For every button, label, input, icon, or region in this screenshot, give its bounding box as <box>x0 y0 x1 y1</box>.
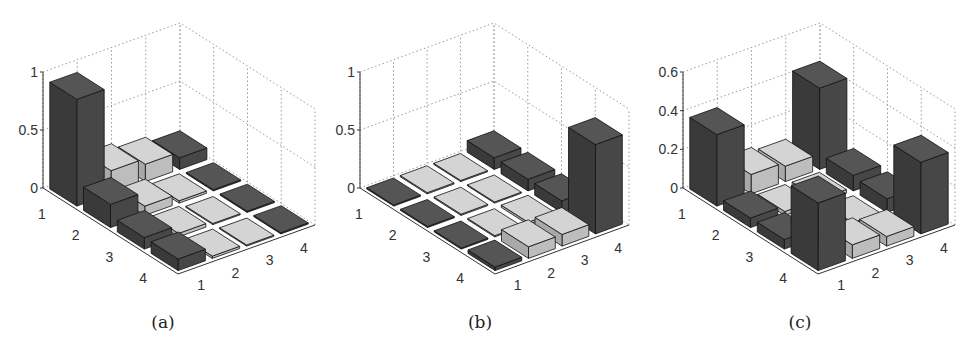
subplot-a: 00.5112341234 (a) <box>0 0 323 352</box>
col-tick-label: 2 <box>231 265 239 281</box>
row-tick-label: 4 <box>139 270 147 286</box>
col-tick-label: 4 <box>614 240 622 256</box>
caption-a: (a) <box>133 312 193 332</box>
z-tick-label: 0 <box>347 180 355 196</box>
row-tick-label: 3 <box>745 249 753 265</box>
col-tick-label: 4 <box>300 240 308 256</box>
subplot-c: 00.20.40.612341234 (c) <box>640 0 963 352</box>
col-tick-label: 2 <box>547 265 555 281</box>
z-tick-label: 0.5 <box>336 122 356 138</box>
row-tick-label: 1 <box>355 206 363 222</box>
bar3d-chart-c: 00.20.40.612341234 <box>640 0 969 310</box>
row-tick-label: 4 <box>456 270 464 286</box>
caption-b: (b) <box>450 312 510 332</box>
row-tick-label: 1 <box>38 206 46 222</box>
row-tick-label: 4 <box>779 270 787 286</box>
bar <box>791 176 845 271</box>
z-tick-label: 0.6 <box>659 64 679 80</box>
bars <box>690 61 948 270</box>
z-tick-label: 0.4 <box>659 103 679 119</box>
row-tick-label: 2 <box>389 227 397 243</box>
row-tick-label: 3 <box>422 249 430 265</box>
z-tick-label: 0.2 <box>659 141 679 157</box>
z-tick-label: 0 <box>30 180 38 196</box>
bar3d-chart-a: 00.5112341234 <box>0 0 330 310</box>
z-tick-label: 0.5 <box>19 122 39 138</box>
row-tick-label: 3 <box>105 249 113 265</box>
col-tick-label: 3 <box>906 252 914 268</box>
caption-c: (c) <box>770 312 830 332</box>
col-tick-label: 3 <box>266 252 274 268</box>
z-tick-label: 1 <box>30 64 38 80</box>
z-tick-label: 1 <box>347 64 355 80</box>
bars <box>367 118 623 271</box>
col-tick-label: 3 <box>581 252 589 268</box>
col-tick-label: 2 <box>871 265 879 281</box>
bar <box>690 108 744 207</box>
subplot-b: 00.5112341234 (b) <box>317 0 640 352</box>
col-tick-label: 1 <box>837 277 845 293</box>
row-tick-label: 2 <box>72 227 80 243</box>
z-tick-label: 0 <box>670 180 678 196</box>
col-tick-label: 1 <box>514 277 522 293</box>
row-tick-label: 1 <box>678 206 686 222</box>
bar3d-chart-b: 00.5112341234 <box>317 0 647 310</box>
col-tick-label: 1 <box>197 277 205 293</box>
col-tick-label: 4 <box>940 240 948 256</box>
row-tick-label: 2 <box>712 227 720 243</box>
